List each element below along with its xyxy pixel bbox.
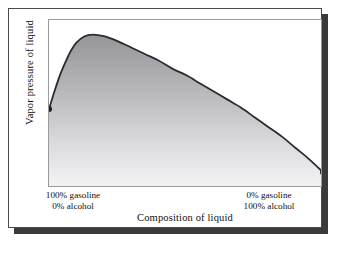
x-axis-title: Composition of liquid: [48, 212, 322, 223]
plot-area: [48, 19, 322, 187]
x-tick-label-right: 0% gasoline 100% alcohol: [223, 190, 315, 211]
x-tick-label-right-line1: 0% gasoline: [223, 190, 315, 201]
figure-panel: Vapor pressure of liquid: [8, 8, 322, 228]
curve-fill-area: [49, 35, 322, 187]
x-tick-label-right-line2: 100% alcohol: [223, 201, 315, 212]
x-tick-label-left: 100% gasoline 0% alcohol: [27, 190, 119, 211]
figure-root: Vapor pressure of liquid: [0, 0, 339, 254]
x-tick-label-left-line2: 0% alcohol: [27, 201, 119, 212]
x-tick-label-left-line1: 100% gasoline: [27, 190, 119, 201]
y-axis-title: Vapor pressure of liquid: [24, 0, 35, 153]
vapor-pressure-curve-svg: [49, 20, 322, 187]
